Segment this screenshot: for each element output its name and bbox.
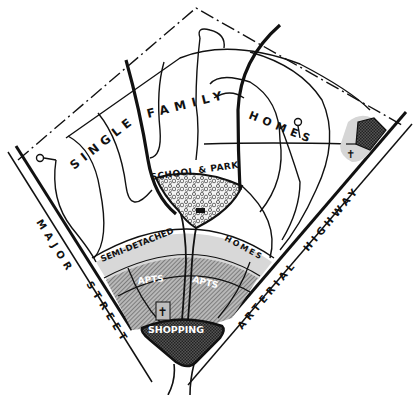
label-family: FAMILY [145, 87, 229, 121]
label-shopping: SHOPPING [148, 324, 204, 335]
label-homes-top: HOMES [247, 109, 317, 147]
neighborhood-plan-diagram: ✝ ✝ SINGLE FAMILY HOMES SCHOOL & PARK SE… [0, 0, 418, 395]
school-park-area [156, 174, 242, 229]
school-building-icon [196, 208, 205, 213]
cul-de-sac-left [37, 155, 57, 162]
right-church-block [356, 118, 386, 150]
center-church-cross-icon: ✝ [158, 305, 168, 319]
label-highway: HIGHWAY [301, 184, 362, 253]
right-church-cross-icon: ✝ [346, 148, 355, 161]
